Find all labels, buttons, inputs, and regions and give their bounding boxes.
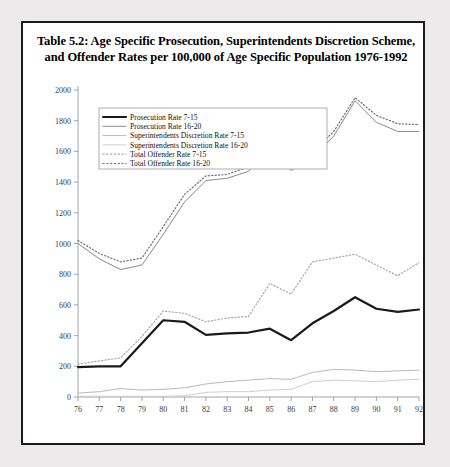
- y-axis-tick-label: 1400: [55, 178, 71, 187]
- x-axis-tick-label: 86: [287, 405, 295, 414]
- y-axis-tick-label: 1600: [55, 147, 71, 156]
- x-axis-tick-label: 92: [415, 405, 423, 414]
- legend-label-3: Superintendents Discretion Rate 16-20: [130, 141, 248, 150]
- x-axis-tick-label: 76: [74, 405, 82, 414]
- y-axis-tick-label: 1200: [55, 209, 71, 218]
- x-axis-ticks: 7677787980818283848586878889909192: [74, 397, 423, 414]
- x-axis-tick-label: 87: [308, 405, 316, 414]
- x-axis-tick-label: 84: [245, 405, 253, 414]
- y-axis-tick-label: 400: [59, 332, 71, 341]
- y-axis-tick-label: 1800: [55, 117, 71, 126]
- chart-legend: Prosecution Rate 7-15Prosecution Rate 16…: [99, 108, 327, 169]
- y-axis-tick-label: 2000: [55, 86, 71, 95]
- x-axis-tick-label: 90: [372, 405, 380, 414]
- y-axis-ticks: 0200400600800100012001400160018002000: [55, 86, 78, 402]
- x-axis-tick-label: 81: [181, 405, 189, 414]
- series-line-4: [78, 254, 419, 364]
- x-axis-tick-label: 89: [351, 405, 359, 414]
- x-axis-tick-label: 77: [95, 405, 103, 414]
- legend-label-4: Total Offender Rate 7-15: [130, 150, 206, 159]
- y-axis-tick-label: 800: [59, 270, 71, 279]
- legend-label-1: Prosecution Rate 16-20: [130, 122, 201, 131]
- x-axis-tick-label: 83: [223, 405, 231, 414]
- y-axis-tick-label: 0: [67, 393, 71, 402]
- x-axis-tick-label: 85: [266, 405, 274, 414]
- y-axis-tick-label: 200: [59, 362, 71, 371]
- y-axis-tick-label: 600: [59, 301, 71, 310]
- x-axis-tick-label: 79: [138, 405, 146, 414]
- legend-label-0: Prosecution Rate 7-15: [130, 113, 198, 122]
- line-chart: 0200400600800100012001400160018002000 76…: [23, 23, 427, 447]
- legend-label-2: Superintendents Discretion Rate 7-15: [130, 131, 244, 140]
- x-axis-tick-label: 78: [117, 405, 125, 414]
- y-axis-tick-label: 1000: [55, 240, 71, 249]
- x-axis-tick-label: 88: [330, 405, 338, 414]
- x-axis-tick-label: 82: [202, 405, 210, 414]
- x-axis-tick-label: 91: [394, 405, 402, 414]
- series-line-3: [78, 379, 419, 396]
- series-line-0: [78, 297, 419, 367]
- x-axis-tick-label: 80: [159, 405, 167, 414]
- legend-label-5: Total Offender Rate 16-20: [130, 159, 210, 168]
- figure-panel: Table 5.2: Age Specific Prosecution, Sup…: [21, 21, 425, 445]
